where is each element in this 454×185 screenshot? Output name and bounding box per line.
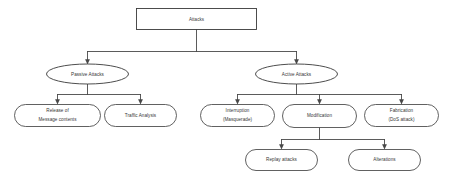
node-release-label-line2: Message contents <box>38 117 77 122</box>
node-fabrication[interactable]: Fabrication (DoS attack) <box>365 105 439 127</box>
node-traffic-analysis-label: Traffic Analysis <box>125 113 157 118</box>
node-modification[interactable]: Modification <box>283 105 357 128</box>
node-active-attacks-label: Active Attacks <box>282 72 312 77</box>
node-alterations-label: Alterations <box>373 157 396 162</box>
node-interruption-label-line2: (Masquerade) <box>223 117 253 122</box>
node-attacks[interactable]: Attacks <box>137 9 257 30</box>
node-passive-attacks-label: Passive Attacks <box>71 72 105 77</box>
node-release-of-message-contents[interactable]: Release of Message contents <box>15 105 101 127</box>
node-replay-attacks[interactable]: Replay attacks <box>246 150 318 171</box>
arrowhead-alterations <box>382 144 387 149</box>
node-interruption-label-line1: Interruption <box>226 108 250 113</box>
node-release-label-line1: Release of <box>46 108 69 113</box>
arrowhead-replay <box>279 144 284 149</box>
node-active-attacks[interactable]: Active Attacks <box>256 64 338 84</box>
node-fabrication-label-line2: (DoS attack) <box>388 117 415 122</box>
connector-layer <box>55 30 404 150</box>
node-replay-attacks-label: Replay attacks <box>266 157 297 162</box>
arrowhead-modification <box>317 99 322 104</box>
node-traffic-analysis[interactable]: Traffic Analysis <box>105 105 177 127</box>
arrowhead-release <box>55 99 60 104</box>
node-passive-attacks[interactable]: Passive Attacks <box>47 64 129 84</box>
node-fabrication-label-line1: Fabrication <box>390 108 414 113</box>
node-interruption[interactable]: Interruption (Masquerade) <box>201 105 275 127</box>
node-alterations[interactable]: Alterations <box>349 150 421 171</box>
arrowhead-traffic <box>138 99 143 104</box>
node-attacks-label: Attacks <box>189 17 205 22</box>
arrowhead-fabrication <box>399 99 404 104</box>
arrowhead-interruption <box>235 99 240 104</box>
attacks-taxonomy-diagram: Attacks Passive Attacks Active Attacks R… <box>0 0 454 185</box>
diagram-canvas: Attacks Passive Attacks Active Attacks R… <box>0 0 454 185</box>
node-modification-label: Modification <box>307 113 333 118</box>
